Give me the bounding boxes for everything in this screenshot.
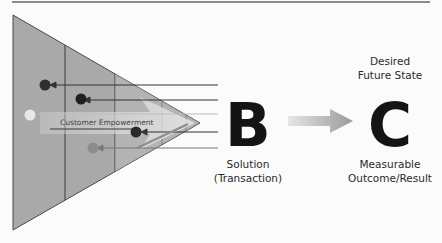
- node-c-bottom-line2: Outcome/Result: [342, 171, 438, 185]
- dot-5: [88, 143, 99, 154]
- node-b-label-line2: (Transaction): [212, 171, 284, 185]
- node-b-label-line1: Solution: [212, 157, 284, 171]
- dot-4: [131, 127, 142, 138]
- node-c-bottom-label: Measurable Outcome/Result: [342, 157, 438, 185]
- arrow-right-icon: [288, 109, 353, 133]
- node-c-top-label: Desired Future State: [350, 54, 430, 82]
- node-c-bottom-line1: Measurable: [342, 157, 438, 171]
- node-b-label: Solution (Transaction): [212, 157, 284, 185]
- node-b-letter: B: [225, 95, 271, 155]
- dot-2: [76, 94, 87, 105]
- node-c-top-line2: Future State: [350, 68, 430, 82]
- node-c-letter: C: [368, 95, 412, 155]
- dot-1: [40, 80, 51, 91]
- node-c-top-line1: Desired: [350, 54, 430, 68]
- customer-empowerment-label: Customer Empowerment: [60, 118, 154, 127]
- dot-3: [25, 110, 36, 121]
